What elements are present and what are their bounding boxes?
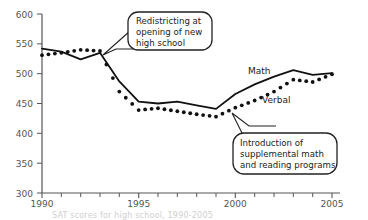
callout-line-2: opening of new <box>136 27 202 37</box>
verbal-series-label: Verbal <box>262 95 290 105</box>
y-tick-label: 300 <box>16 189 33 199</box>
callout-line-3: and reading programs <box>240 160 336 170</box>
verbal-data-point <box>98 49 102 53</box>
callout-line-2: supplemental math <box>240 149 324 159</box>
verbal-data-point <box>59 51 63 55</box>
verbal-data-point <box>79 48 83 52</box>
x-axis-labels: 1990 1995 2000 2005 <box>31 199 344 209</box>
y-tick-label: 500 <box>16 69 33 79</box>
x-tick-label: 2000 <box>224 199 247 209</box>
y-tick-label: 350 <box>16 159 33 169</box>
series-group <box>40 48 334 119</box>
verbal-data-point <box>137 108 141 112</box>
verbal-data-point <box>72 49 76 53</box>
callout-line-3: high school <box>136 38 185 48</box>
verbal-data-point <box>188 111 192 115</box>
verbal-data-point <box>182 110 186 114</box>
callout-line-1: Redistricting at <box>136 16 202 26</box>
chart-figure: 600 550 500 450 400 350 300 <box>0 0 368 220</box>
verbal-data-point <box>233 106 237 110</box>
y-tick-label: 550 <box>16 39 33 49</box>
verbal-data-point <box>40 53 44 57</box>
x-tick-label: 1990 <box>31 199 54 209</box>
line-chart: 600 550 500 450 400 350 300 <box>0 0 368 220</box>
y-axis-labels: 600 550 500 450 400 350 300 <box>16 10 33 199</box>
figure-caption: SAT scores for high school, 1990-2005 <box>52 211 352 220</box>
callout-supplemental-programs[interactable]: Introduction of supplemental math and re… <box>232 113 337 174</box>
verbal-data-point <box>150 107 154 111</box>
y-axis-ticks <box>37 14 42 193</box>
x-axis-ticks <box>42 193 332 198</box>
verbal-data-point <box>163 107 167 111</box>
verbal-data-point <box>317 78 321 82</box>
verbal-data-point <box>124 96 128 100</box>
verbal-data-point <box>227 109 231 113</box>
verbal-data-point <box>221 112 225 116</box>
verbal-data-point <box>272 90 276 94</box>
verbal-data-point <box>253 99 257 103</box>
callout-line-1: Introduction of <box>240 138 304 148</box>
verbal-data-point <box>311 80 315 84</box>
verbal-data-point <box>156 106 160 110</box>
verbal-data-point <box>330 72 334 76</box>
verbal-data-point <box>298 79 302 83</box>
verbal-data-point <box>175 109 179 113</box>
verbal-data-point <box>85 48 89 52</box>
verbal-data-point <box>246 101 250 105</box>
verbal-data-point <box>92 49 96 53</box>
verbal-data-point <box>240 103 244 107</box>
verbal-data-point <box>47 52 51 56</box>
y-tick-label: 450 <box>16 99 33 109</box>
verbal-data-point <box>291 78 295 82</box>
x-tick-label: 2005 <box>321 199 344 209</box>
verbal-data-point <box>324 75 328 79</box>
verbal-data-point <box>214 115 218 119</box>
x-tick-label: 1995 <box>127 199 150 209</box>
verbal-data-point <box>285 82 289 86</box>
verbal-data-point <box>201 113 205 117</box>
verbal-data-point <box>169 108 173 112</box>
verbal-data-point <box>117 90 121 94</box>
y-tick-label: 400 <box>16 129 33 139</box>
y-tick-label: 600 <box>16 10 33 20</box>
math-series-label: Math <box>248 66 271 76</box>
verbal-data-point <box>143 108 147 112</box>
verbal-data-point <box>130 102 134 106</box>
verbal-data-point <box>195 112 199 116</box>
verbal-data-point <box>53 52 57 56</box>
callout-redistricting[interactable]: Redistricting at opening of new high sch… <box>103 12 212 55</box>
verbal-data-point <box>304 79 308 83</box>
verbal-data-point <box>105 63 109 67</box>
verbal-data-point <box>66 50 70 54</box>
verbal-data-point <box>279 86 283 90</box>
verbal-data-point <box>208 114 212 118</box>
verbal-data-point <box>111 76 115 80</box>
